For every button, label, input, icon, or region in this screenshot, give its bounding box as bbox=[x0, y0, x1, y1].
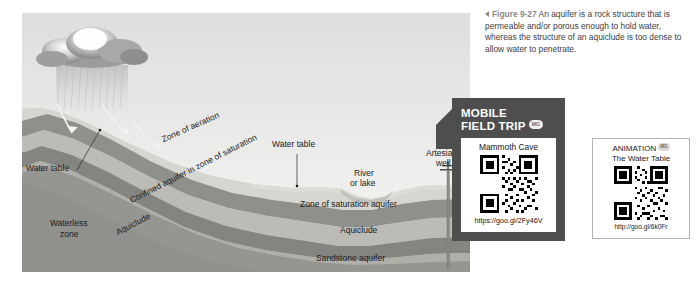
callout-pointer-stem bbox=[436, 125, 453, 149]
label-waterless-zone-line1: Waterless bbox=[50, 218, 87, 228]
mft-title-line2: FIELD TRIP bbox=[461, 120, 526, 132]
mobile-field-trip-title: MOBILE FIELD TRIPMG bbox=[452, 98, 565, 132]
aquifer-diagram: Water table Zone of aeration Water table… bbox=[22, 13, 470, 272]
mobile-field-trip-panel[interactable]: MOBILE FIELD TRIPMG Mammoth Cave bbox=[452, 98, 565, 241]
label-river-or-lake-line2: or lake bbox=[350, 178, 376, 188]
mg-badge: MG bbox=[529, 120, 543, 129]
mft-url[interactable]: https://goo.gl/2Fy46V bbox=[461, 213, 556, 225]
mobile-field-trip-card[interactable]: Mammoth Cave bbox=[461, 138, 556, 232]
label-aquiclude-right: Aquiclude bbox=[340, 225, 377, 235]
animation-title: ANIMATION bbox=[612, 144, 656, 153]
mft-card-title: Mammoth Cave bbox=[461, 138, 556, 152]
label-waterless-zone-line2: zone bbox=[60, 229, 78, 239]
animation-panel[interactable]: ANIMATIONMG The Water Table bbox=[592, 138, 690, 239]
qr-code-mammoth-cave[interactable] bbox=[480, 155, 538, 213]
label-sandstone-aquifer: Sandstone aquifer bbox=[316, 253, 385, 263]
mft-title-line1: MOBILE bbox=[461, 107, 507, 119]
mg-badge: MG bbox=[658, 143, 669, 151]
left-triangle-icon bbox=[485, 11, 489, 17]
animation-url[interactable]: http://goo.gl/6k0Fr bbox=[593, 220, 689, 230]
label-water-table-left: Water table bbox=[26, 163, 69, 173]
animation-subtitle: The Water Table bbox=[593, 153, 689, 163]
label-river-or-lake-line1: River bbox=[354, 168, 374, 178]
label-zone-of-saturation-aquifer: Zone of saturation aquifer bbox=[300, 199, 397, 209]
qr-code-water-table[interactable] bbox=[614, 166, 668, 220]
label-water-table-center: Water table bbox=[272, 139, 315, 149]
animation-title-row: ANIMATIONMG bbox=[593, 139, 689, 153]
figure-number: Figure 9-27 bbox=[492, 9, 537, 19]
figure-caption: Figure 9-27 An aquifer is a rock structu… bbox=[485, 9, 690, 55]
label-artesian-well-line2: well bbox=[436, 158, 451, 168]
